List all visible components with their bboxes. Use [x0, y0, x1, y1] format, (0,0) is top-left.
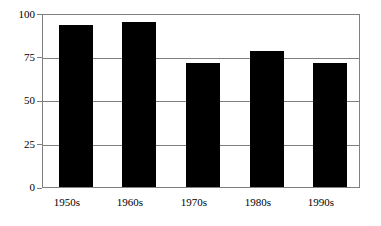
bar-1980s [250, 51, 284, 187]
x-axis-tick-label-1950s: 1950s [43, 196, 91, 208]
y-axis-tick-label-25: 25 [0, 139, 35, 150]
x-axis-tick-label-1970s: 1970s [170, 196, 218, 208]
bar-1970s [186, 63, 220, 187]
y-axis-tick-label-50: 50 [0, 95, 35, 106]
bar-chart: 100 75 50 25 0 1950s 1960s 1970s 1980s 1… [0, 0, 381, 226]
y-axis-tick-label-75: 75 [0, 52, 35, 63]
bar-1990s [313, 63, 347, 187]
x-axis-tick-label-1980s: 1980s [234, 196, 282, 208]
y-axis-tick-label-100: 100 [0, 9, 35, 20]
x-axis-tick-label-1990s: 1990s [297, 196, 345, 208]
y-axis-tick-label-0: 0 [0, 182, 35, 193]
bar-1960s [122, 22, 156, 187]
bar-1950s [59, 25, 93, 187]
plot-area [42, 14, 360, 188]
x-axis-tick-label-1960s: 1960s [106, 196, 154, 208]
y-axis-tick-mark-0 [37, 188, 42, 189]
